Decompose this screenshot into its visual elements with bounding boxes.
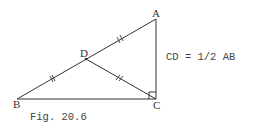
equation-text: CD = 1/2 AB <box>166 51 235 63</box>
label-c: C <box>153 99 160 111</box>
figure-caption: Fig. 20.6 <box>30 111 87 123</box>
label-b: B <box>13 98 20 110</box>
label-d: D <box>80 47 88 59</box>
equal-mark-ad <box>117 35 123 43</box>
geometry-figure: A B C D CD = 1/2 AB Fig. 20.6 <box>0 0 254 129</box>
label-a: A <box>152 7 160 19</box>
